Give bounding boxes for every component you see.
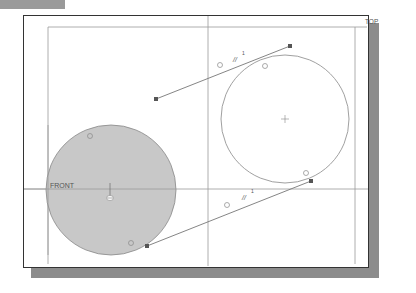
front-plane-label: FRONT	[50, 182, 75, 189]
tangent-icon	[304, 171, 309, 176]
sketch-canvas[interactable]: // 1 // 1 TOP FRONT	[0, 0, 416, 293]
left-circle[interactable]	[46, 125, 176, 255]
parallel-constraint-lower: // 1	[241, 188, 254, 201]
parallel-index: 1	[251, 188, 254, 194]
tangent-icon	[225, 203, 230, 208]
parallel-icon: //	[241, 194, 247, 201]
lower-line-end-point[interactable]	[309, 179, 313, 183]
lower-line-start-point[interactable]	[145, 244, 149, 248]
upper-line-start-point[interactable]	[154, 97, 158, 101]
parallel-icon: //	[232, 56, 238, 63]
right-circle-center-icon	[281, 115, 289, 123]
tangent-icon	[263, 64, 268, 69]
tangent-icon	[218, 63, 223, 68]
upper-line-end-point[interactable]	[288, 44, 292, 48]
top-plane-label: TOP	[365, 18, 378, 25]
parallel-index: 1	[242, 50, 245, 56]
parallel-constraint-upper: // 1	[232, 50, 245, 63]
upper-tangent-line[interactable]	[156, 46, 290, 99]
